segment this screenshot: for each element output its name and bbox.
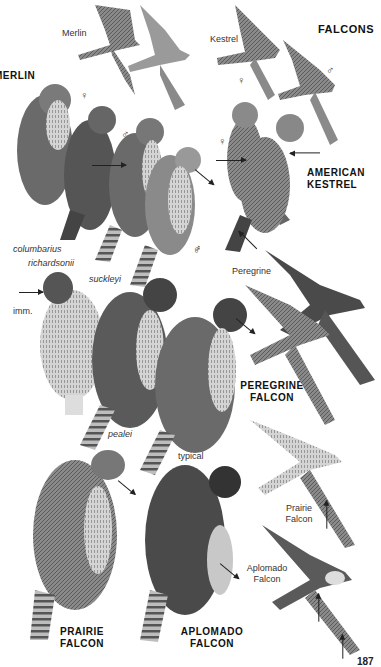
- pointer-arrow: [92, 165, 126, 166]
- merlin-flight-bird-1: [78, 5, 140, 95]
- page-number: 187: [357, 656, 374, 667]
- merlin-flight-bird-2: [128, 5, 190, 110]
- aplomado-falcon-perched: [140, 465, 241, 642]
- pointer-arrow: [318, 594, 319, 622]
- merlin-female-perched: [17, 84, 73, 205]
- pointer-arrow: [19, 292, 43, 293]
- pointer-arrow: [290, 152, 320, 153]
- pointer-arrow: [216, 160, 246, 161]
- pointer-arrow: [342, 635, 343, 659]
- pointer-arrow: [326, 501, 327, 529]
- prairie-falcon-perched: [30, 450, 125, 640]
- kestrel-flight-bird-1: [217, 5, 280, 100]
